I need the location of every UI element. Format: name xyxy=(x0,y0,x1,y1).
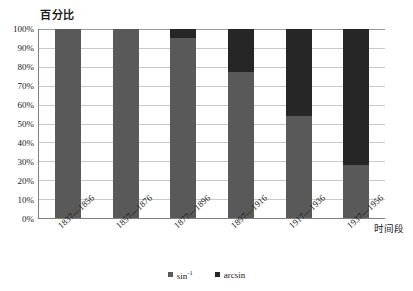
bar-slot xyxy=(270,29,328,218)
y-axis-tick-label: 70% xyxy=(18,82,35,91)
y-axis-tick-label: 30% xyxy=(18,158,35,167)
x-slot: 1877—1896 xyxy=(154,219,212,265)
bar-segment-sin-1[interactable] xyxy=(170,38,196,218)
legend-swatch xyxy=(215,272,220,277)
bar-slot xyxy=(212,29,270,218)
y-axis-tick-labels: 100%90%80%70%60%50%40%30%20%10%0% xyxy=(0,29,37,219)
y-axis-tick-label: 10% xyxy=(18,196,35,205)
stacked-bar[interactable] xyxy=(228,29,254,218)
legend-label: sin-1 xyxy=(177,268,193,281)
bar-segment-arcsin[interactable] xyxy=(286,29,312,116)
y-axis-tick-label: 80% xyxy=(18,63,35,72)
bar-slot xyxy=(327,29,385,218)
stacked-bar[interactable] xyxy=(113,29,139,218)
y-axis-tick-label: 0% xyxy=(22,215,34,224)
stacked-bar[interactable] xyxy=(170,29,196,218)
stacked-bar[interactable] xyxy=(343,29,369,218)
stacked-bar[interactable] xyxy=(286,29,312,218)
legend-item[interactable]: sin-1 xyxy=(168,268,193,281)
legend-swatch xyxy=(168,272,173,277)
y-axis-tick-label: 20% xyxy=(18,177,35,186)
bar-slot xyxy=(154,29,212,218)
legend-label: arcsin xyxy=(224,270,246,280)
bar-segment-arcsin[interactable] xyxy=(343,29,369,165)
bars-layer xyxy=(39,29,385,218)
y-axis-tick-label: 90% xyxy=(18,44,35,53)
y-axis-tick-label: 40% xyxy=(18,139,35,148)
y-axis-title: 百分比 xyxy=(40,6,75,22)
chart-legend: sin-1arcsin xyxy=(0,268,413,281)
bar-slot xyxy=(97,29,155,218)
legend-item[interactable]: arcsin xyxy=(215,270,246,280)
x-slot: 1837—1856 xyxy=(38,219,96,265)
bar-segment-sin-1[interactable] xyxy=(55,29,81,218)
x-slot: 1857—1876 xyxy=(96,219,154,265)
y-axis-tick-label: 60% xyxy=(18,101,35,110)
bar-segment-arcsin[interactable] xyxy=(170,29,196,38)
x-axis-title: 时间段 xyxy=(374,221,404,235)
y-axis-tick-label: 50% xyxy=(18,120,35,129)
x-slot: 1917—1936 xyxy=(269,219,327,265)
bar-segment-sin-1[interactable] xyxy=(228,72,254,218)
y-axis-tick-label: 100% xyxy=(13,25,34,34)
chart-container: 百分比 100%90%80%70%60%50%40%30%20%10%0% 18… xyxy=(0,0,413,291)
plot-area xyxy=(38,29,385,219)
x-slot: 1897—1916 xyxy=(211,219,269,265)
bar-slot xyxy=(39,29,97,218)
stacked-bar[interactable] xyxy=(55,29,81,218)
bar-segment-arcsin[interactable] xyxy=(228,29,254,72)
x-axis-tick-labels: 1837—18561857—18761877—18961897—19161917… xyxy=(38,219,385,265)
bar-segment-sin-1[interactable] xyxy=(113,29,139,218)
